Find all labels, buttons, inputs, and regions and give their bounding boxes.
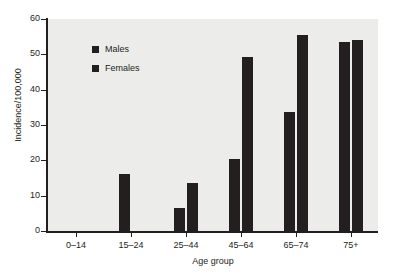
- legend-swatch-icon: [92, 65, 99, 72]
- bar-females-75+: [352, 40, 363, 231]
- y-axis-tick-label-text: 60: [2, 14, 40, 23]
- x-axis-tick: [186, 233, 187, 237]
- bar-males-15-24: [119, 174, 130, 231]
- x-axis-tick-label: 25–44: [156, 240, 216, 250]
- x-axis-tick-label: 75+: [321, 240, 381, 250]
- bar-females-45-64: [242, 57, 253, 231]
- y-axis-tick: [41, 160, 46, 161]
- y-axis-tick-label-text: 0: [2, 226, 40, 235]
- x-axis-tick: [351, 233, 352, 237]
- y-axis-tick: [41, 19, 46, 20]
- chart-figure: 0102030405060 Incidence/100,000 0–1415–2…: [0, 0, 403, 273]
- bar-females-65-74: [297, 35, 308, 231]
- bar-males-65-74: [284, 112, 295, 231]
- legend-label: Males: [105, 44, 129, 54]
- bar-males-75+: [339, 42, 350, 231]
- y-axis-tick: [41, 196, 46, 197]
- bar-males-25-44: [174, 208, 185, 231]
- x-axis-tick-label: 0–14: [46, 240, 106, 250]
- x-axis-tick-label: 15–24: [101, 240, 161, 250]
- x-axis-line: [46, 231, 378, 233]
- y-axis-tick: [41, 90, 46, 91]
- x-axis-tick-label: 65–74: [266, 240, 326, 250]
- y-axis-tick-label: 0: [0, 226, 40, 235]
- y-axis-tick-label-text: 10: [2, 191, 40, 200]
- x-axis-tick: [296, 233, 297, 237]
- x-axis-tick: [131, 233, 132, 237]
- y-axis-tick-label: 10: [0, 191, 40, 200]
- y-axis-tick: [41, 231, 46, 232]
- x-axis-tick-label: 45–64: [211, 240, 271, 250]
- y-axis-tick: [41, 125, 46, 126]
- bar-males-45-64: [229, 159, 240, 231]
- x-axis-title: Age group: [48, 256, 378, 266]
- x-axis-tick: [76, 233, 77, 237]
- legend-swatch-icon: [92, 46, 99, 53]
- y-axis-tick-label: 60: [0, 14, 40, 23]
- y-axis-tick: [41, 54, 46, 55]
- x-axis-tick: [241, 233, 242, 237]
- bar-females-25-44: [187, 183, 198, 231]
- legend-label: Females: [105, 63, 140, 73]
